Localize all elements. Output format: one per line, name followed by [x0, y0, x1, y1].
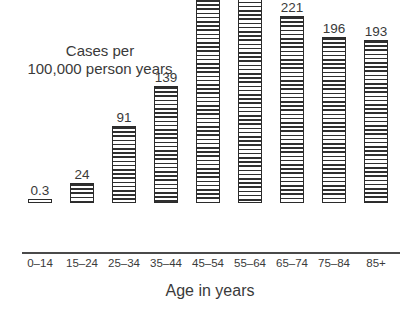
bar-chart-figure: Cases per 100,000 person years 0.3 24 91…	[0, 0, 420, 309]
bar-group: 196	[322, 37, 346, 203]
x-tick-label: 55–64	[228, 256, 272, 270]
bar: 254	[238, 0, 262, 203]
bar-group: 254	[238, 0, 262, 203]
x-tick-label: 45–54	[186, 256, 230, 270]
x-tick-label: 0–14	[18, 256, 62, 270]
bar: 0.3	[28, 199, 52, 203]
bar: 91	[112, 126, 136, 203]
x-axis-line	[22, 252, 400, 254]
bar: 221	[280, 16, 304, 203]
bar-group: 139	[154, 86, 178, 203]
bar: 193	[364, 40, 388, 203]
bar-value-label: 221	[281, 1, 304, 15]
x-axis-title: Age in years	[0, 281, 420, 301]
bar-group: 91	[112, 126, 136, 203]
bar: 196	[322, 37, 346, 203]
x-tick-label: 15–24	[60, 256, 104, 270]
bar-group: 193	[364, 40, 388, 203]
x-tick-label: 65–74	[270, 256, 314, 270]
bar-value-label: 24	[74, 168, 89, 182]
plot-area: 0.3 24 91 139 266 254	[0, 0, 420, 260]
bar-value-label: 196	[323, 22, 346, 36]
bar: 24	[70, 183, 94, 203]
bar: 139	[154, 86, 178, 203]
bar-value-label: 91	[116, 111, 131, 125]
x-tick-label: 25–34	[102, 256, 146, 270]
bar-group: 0.3	[28, 199, 52, 203]
x-axis-tick-labels: 0–14 15–24 25–34 35–44 45–54 55–64 65–74…	[0, 256, 420, 274]
x-tick-label: 35–44	[144, 256, 188, 270]
bar-value-label: 193	[365, 25, 388, 39]
bar: 266	[196, 0, 220, 203]
bar-group: 221	[280, 16, 304, 203]
x-tick-label: 85+	[354, 256, 398, 270]
bar-group: 266	[196, 0, 220, 203]
x-tick-label: 75–84	[312, 256, 356, 270]
bar-value-label: 139	[155, 71, 178, 85]
bar-group: 24	[70, 183, 94, 203]
bar-value-label: 0.3	[31, 184, 50, 198]
